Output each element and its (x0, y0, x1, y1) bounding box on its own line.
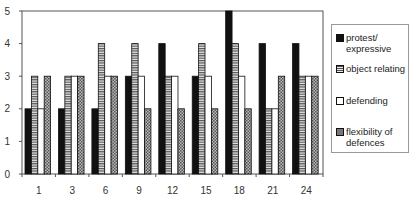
bar (145, 109, 151, 174)
bar (125, 76, 131, 174)
y-tick-label: 0 (4, 169, 10, 180)
x-tick-label: 12 (167, 185, 179, 196)
bar (138, 76, 144, 174)
x-axis: 13691215182124 (22, 174, 323, 196)
x-tick-label: 3 (69, 185, 75, 196)
bar (98, 44, 104, 174)
y-tick-label: 1 (4, 136, 10, 147)
bar (172, 76, 178, 174)
legend-label: protest/ expressive (346, 32, 408, 54)
bar (232, 44, 238, 174)
bar (178, 109, 184, 174)
x-tick-label: 21 (267, 185, 279, 196)
legend-item-flexibility-of-defences: flexibility of defences (336, 126, 408, 148)
bar (192, 76, 198, 174)
bar (159, 44, 165, 174)
legend-label: object relating (346, 63, 408, 74)
x-tick-label: 15 (200, 185, 212, 196)
bar (65, 76, 71, 174)
y-tick-label: 5 (4, 6, 10, 17)
bar (266, 109, 272, 174)
bar (305, 76, 311, 174)
bar (205, 76, 211, 174)
striped-swatch-icon (336, 65, 344, 73)
legend: protest/ expressive object relating defe… (331, 24, 409, 153)
legend-label: defending (346, 95, 408, 106)
white-swatch-icon (336, 97, 344, 105)
bar (92, 109, 98, 174)
legend-label: flexibility of defences (346, 126, 408, 148)
bar (31, 76, 37, 174)
bar (132, 44, 138, 174)
legend-item-object-relating: object relating (336, 63, 408, 74)
x-tick-label: 9 (136, 185, 142, 196)
x-tick-label: 1 (36, 185, 42, 196)
bar (272, 109, 278, 174)
bar (293, 44, 299, 174)
legend-item-defending: defending (336, 95, 408, 106)
solid-black-swatch-icon (336, 34, 344, 42)
bar (44, 76, 50, 174)
bar (226, 11, 232, 174)
bar (58, 109, 64, 174)
bar (278, 76, 284, 174)
bar (238, 76, 244, 174)
bar (165, 76, 171, 174)
bar (71, 76, 77, 174)
x-tick-label: 6 (103, 185, 109, 196)
bar (312, 76, 318, 174)
bar (211, 109, 217, 174)
x-tick-label: 24 (301, 185, 313, 196)
bar (105, 76, 111, 174)
bar (38, 109, 44, 174)
bar (245, 109, 251, 174)
y-axis: 012345 (4, 6, 22, 180)
x-tick-label: 18 (234, 185, 246, 196)
y-tick-label: 4 (4, 38, 10, 49)
bar (78, 76, 84, 174)
y-tick-label: 2 (4, 103, 10, 114)
bar (25, 109, 31, 174)
bar (259, 44, 265, 174)
crosshatch-swatch-icon (336, 128, 344, 136)
y-tick-label: 3 (4, 71, 10, 82)
bar (299, 76, 305, 174)
legend-item-protest-expressive: protest/ expressive (336, 32, 408, 54)
bar (111, 76, 117, 174)
bar (199, 44, 205, 174)
